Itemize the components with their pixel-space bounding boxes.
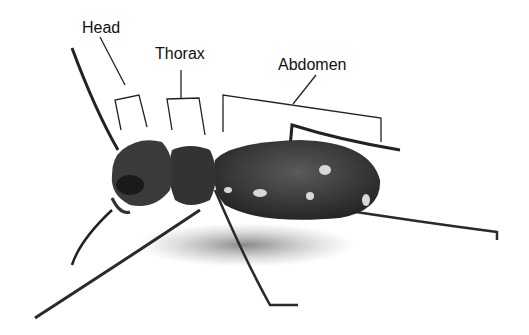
head-shape xyxy=(112,140,173,206)
beetle-illustration xyxy=(0,0,529,335)
elytra-spot xyxy=(306,192,314,200)
label-head: Head xyxy=(82,20,120,36)
abdomen-bracket xyxy=(223,95,381,142)
label-abdomen: Abdomen xyxy=(278,57,347,73)
elytra-spot xyxy=(253,189,267,197)
elytra-spot xyxy=(319,165,331,175)
antenna-upper xyxy=(72,48,118,150)
elytra-spot xyxy=(224,187,232,193)
label-thorax: Thorax xyxy=(155,46,205,62)
head-leader-line xyxy=(100,37,125,85)
abdomen-shape xyxy=(214,140,380,220)
beetle-anatomy-diagram: Head Thorax Abdomen xyxy=(0,0,529,335)
antenna-lower xyxy=(72,210,112,265)
eye xyxy=(116,175,144,195)
abdomen-leader-line xyxy=(293,75,316,104)
elytra-spot xyxy=(362,194,370,206)
thorax-bracket xyxy=(167,98,205,135)
front-leg xyxy=(35,210,200,318)
thorax-shape xyxy=(169,146,216,205)
head-bracket xyxy=(115,95,147,130)
